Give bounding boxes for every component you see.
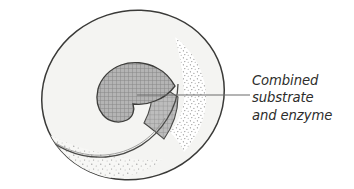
figure-canvas: Combined substrate and enzyme xyxy=(0,0,354,189)
callout-label: Combined substrate and enzyme xyxy=(252,72,352,124)
callout-line-1: Combined xyxy=(252,72,352,89)
callout-line-3: and enzyme xyxy=(252,107,352,124)
callout-line-2: substrate xyxy=(252,89,352,106)
